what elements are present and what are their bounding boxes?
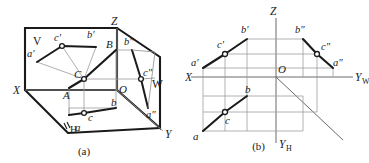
figure-a: V W H X Y Z O A B C a′ b′ c′ a″ b″ c″ a … (0, 0, 185, 163)
label-point-c-dprime: c″ (143, 67, 153, 78)
label-axis-YW: Y W (355, 71, 369, 86)
marker-cprime (223, 52, 228, 57)
marker-C (82, 77, 87, 82)
label-point-c-dprime: c″ (321, 41, 331, 52)
marker-cdprime (315, 52, 320, 57)
marker-cprime (60, 44, 65, 49)
label-point-b-prime: b′ (241, 24, 249, 35)
figure-b: X Z O Y W Y H a′ b′ c′ a″ b″ c″ a b c (b… (185, 0, 369, 163)
label-point-c-prime: c′ (54, 32, 62, 43)
label-axis-X: X (12, 84, 21, 96)
label-point-c: c (88, 111, 93, 123)
label-point-a-dprime: a″ (333, 57, 343, 68)
figure-pair-container: V W H X Y Z O A B C a′ b′ c′ a″ b″ c″ a … (0, 0, 369, 163)
caption-figure-a: (a) (78, 145, 91, 158)
label-point-b-prime: b′ (87, 29, 95, 40)
caption-figure-b: (b) (252, 140, 265, 153)
label-point-a-prime: a′ (191, 57, 199, 68)
axis-45-bisector (276, 77, 343, 140)
marker-c (82, 111, 87, 116)
label-point-a-prime: a′ (27, 48, 35, 59)
label-axis-YH: Y H (279, 138, 292, 153)
label-origin-O: O (278, 63, 286, 75)
label-plane-W: W (152, 78, 163, 90)
label-point-a: a (75, 121, 81, 133)
label-point-B: B (106, 38, 113, 50)
label-axis-Z: Z (111, 15, 118, 27)
label-point-b: b (111, 96, 117, 108)
label-point-a-dprime: a″ (146, 109, 156, 120)
figure-a-drawing: V W H X Y Z O A B C a′ b′ c′ a″ b″ c″ a … (0, 0, 185, 163)
label-axis-Z: Z (270, 5, 277, 17)
label-point-b-dprime: b″ (124, 36, 134, 47)
label-point-b-dprime: b″ (295, 24, 305, 35)
front-projection-polyline (37, 46, 96, 62)
label-point-c: c (225, 114, 230, 126)
label-point-C: C (74, 68, 82, 80)
label-axis-X: X (185, 71, 193, 83)
figure-b-drawing: X Z O Y W Y H a′ b′ c′ a″ b″ c″ a b c (b… (185, 0, 369, 163)
label-origin-O: O (119, 83, 127, 95)
label-plane-V: V (33, 35, 42, 47)
label-axis-YW-sub: W (362, 77, 369, 86)
label-point-b: b (245, 83, 251, 95)
label-axis-Y: Y (165, 128, 173, 140)
label-point-c-prime: c′ (217, 39, 225, 50)
label-point-A: A (62, 89, 70, 101)
axis-y-line (117, 90, 163, 131)
label-point-a: a (193, 130, 199, 142)
label-axis-YH-sub: H (286, 144, 292, 153)
